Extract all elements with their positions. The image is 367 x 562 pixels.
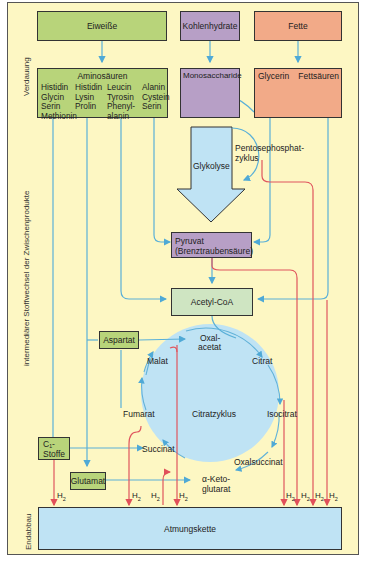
amino-acids-title: Aminosäuren bbox=[38, 71, 167, 81]
box-respiratory-chain: Atmungskette bbox=[38, 507, 342, 550]
h2-label: H2 bbox=[179, 491, 188, 504]
acetyl-coa-label: Acetyl-CoA bbox=[191, 297, 234, 307]
proteins-label: Eiweiße bbox=[87, 21, 117, 31]
cycle-label-oxalsuccinat: Oxalsuccinat bbox=[234, 457, 283, 467]
box-amino-acids: Aminosäuren Histidin Histidin Leucin Ala… bbox=[37, 68, 168, 118]
amino-acid: Methionin bbox=[41, 112, 75, 122]
amino-acid: Prolin bbox=[75, 102, 107, 112]
amino-acid bbox=[75, 112, 107, 122]
glycolysis-arrow bbox=[177, 127, 245, 222]
cycle-label-ketoglutarat-2: glutarat bbox=[202, 484, 230, 494]
box-acetyl-coa: Acetyl-CoA bbox=[171, 288, 253, 316]
amino-acid: alanin bbox=[107, 112, 142, 122]
aspartat-label: Aspartat bbox=[103, 335, 135, 345]
box-fats: Fette bbox=[254, 11, 342, 41]
h2-label: H2 bbox=[301, 491, 310, 504]
h2-label: H2 bbox=[329, 491, 338, 504]
label-final-breakdown: Endabbau bbox=[24, 514, 33, 550]
pentose-label-2: zyklus bbox=[235, 153, 259, 163]
box-c1-compounds: C₁- Stoffe bbox=[38, 437, 70, 460]
h2-label: H2 bbox=[286, 491, 295, 504]
cycle-label-malat: Malat bbox=[147, 356, 168, 366]
box-glutamat: Glutamat bbox=[70, 472, 106, 490]
h2-label: H2 bbox=[57, 491, 66, 504]
glutamat-label: Glutamat bbox=[71, 476, 106, 486]
box-monosaccharides: Monosaccharide bbox=[180, 68, 240, 118]
amino-acid: Serin bbox=[142, 102, 170, 112]
fatty-acids-label: Fettsäuren bbox=[298, 71, 339, 81]
label-intermediate-metabolism: intermediärer Stoffwechsel der Zwischenp… bbox=[22, 191, 31, 367]
fats-label: Fette bbox=[288, 21, 307, 31]
c1-stoffe-label: Stoffe bbox=[43, 449, 65, 459]
monosaccharides-label: Monosaccharide bbox=[183, 71, 242, 81]
pyruvate-label: Pyruvat bbox=[175, 236, 204, 246]
pentose-label-1: Pentosephosphat- bbox=[235, 143, 304, 153]
cycle-label-citrat: Citrat bbox=[252, 356, 272, 366]
cycle-label-succinat: Succinat bbox=[142, 444, 175, 454]
respiratory-chain-label: Atmungskette bbox=[164, 524, 216, 534]
c1-label: C₁- bbox=[43, 439, 55, 449]
cycle-title: Citratzyklus bbox=[192, 409, 236, 419]
box-carbohydrates: Kohlenhydrate bbox=[180, 11, 240, 41]
h2-label: H2 bbox=[315, 491, 324, 504]
cycle-label-fumarat: Fumarat bbox=[123, 409, 155, 419]
carbohydrates-label: Kohlenhydrate bbox=[183, 21, 238, 31]
box-proteins: Eiweiße bbox=[37, 11, 167, 41]
h2-label: H2 bbox=[151, 491, 160, 504]
glycolysis-label: Glykolyse bbox=[193, 161, 230, 171]
amino-acid-list: Histidin Histidin Leucin Alanin Glycin L… bbox=[41, 83, 170, 121]
label-digestion: Verdauung bbox=[22, 57, 31, 96]
cycle-label-oxalacetat-2: acetat bbox=[198, 342, 221, 352]
h2-label: H2 bbox=[132, 491, 141, 504]
glycerin-label: Glycerin bbox=[258, 71, 289, 81]
box-fat-products: Glycerin Fettsäuren bbox=[254, 68, 342, 118]
cycle-label-isocitrat: Isocitrat bbox=[267, 409, 297, 419]
cycle-label-ketoglutarat-1: α-Keto- bbox=[202, 474, 230, 484]
box-aspartat: Aspartat bbox=[99, 331, 139, 349]
pyruvate-alt-label: (Brenztraubensäure) bbox=[175, 246, 253, 256]
box-pyruvate: Pyruvat (Brenztraubensäure) bbox=[171, 232, 252, 258]
amino-acid bbox=[142, 112, 170, 122]
